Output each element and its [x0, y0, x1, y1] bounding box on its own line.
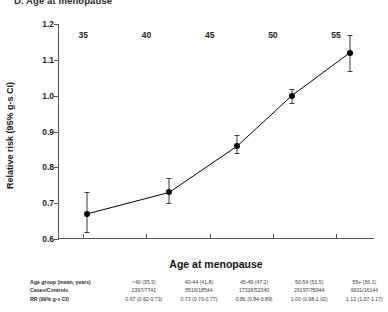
table-cell: 6601/16144 [337, 287, 388, 296]
table-cell: 50-54 (51.5) [282, 278, 337, 287]
error-bar-cap [289, 89, 294, 90]
table-cell: 26197/75944 [282, 287, 337, 296]
table-row-label: Age group (mean, years) [30, 278, 116, 287]
data-point-marker [289, 93, 295, 99]
table-row: Cases/Controls2397/77415516/1854417336/5… [30, 287, 388, 296]
y-tick-label: 1.1 [42, 55, 54, 65]
error-bar-cap [167, 178, 172, 179]
data-point-marker [84, 211, 90, 217]
table-cell: <40 (35.3) [116, 278, 171, 287]
table-cell: 55+ (56.1) [337, 278, 388, 287]
error-bar-cap [235, 135, 240, 136]
table-row-label: Cases/Controls [30, 287, 116, 296]
series-line [58, 24, 374, 239]
error-bar-cap [85, 192, 90, 193]
y-tick-label: 0.7 [42, 198, 54, 208]
data-point-marker [347, 50, 353, 56]
data-point-marker [166, 189, 172, 195]
table-cell: 0.67 (0.62-0.73) [116, 295, 171, 304]
table-cell: 5516/18544 [171, 287, 226, 296]
table-row: RR (99% g-s CI)0.67 (0.62-0.73)0.73 (0.7… [30, 295, 388, 304]
y-axis-title: Relative risk (95% g-s CI) [5, 28, 15, 243]
table-row: Age group (mean, years)<40 (35.3)40-44 (… [30, 278, 388, 287]
table-cell: 40-44 (41.8) [171, 278, 226, 287]
summary-data-table: Age group (mean, years)<40 (35.3)40-44 (… [0, 278, 382, 304]
y-tick-label: 0.6 [42, 234, 54, 244]
error-bar-cap [289, 103, 294, 104]
chart-plot-area: Relative risk (95% g-s CI) 0.60.70.80.91… [0, 14, 382, 242]
error-bar-cap [347, 35, 352, 36]
panel-title: D. Age at menopause [14, 0, 112, 6]
table-cell: 0.73 (0.70-0.77) [171, 295, 226, 304]
table-cell: 2397/7741 [116, 287, 171, 296]
y-tick-label: 1.0 [42, 91, 54, 101]
table-cell: 1.00 (0.98-1.02) [282, 295, 337, 304]
x-axis-title: Age at menopause [58, 258, 374, 270]
error-bar-cap [85, 232, 90, 233]
error-bar-cap [347, 71, 352, 72]
y-tick-label: 1.2 [42, 19, 54, 29]
table-cell: 17336/52040 [227, 287, 282, 296]
y-tick-label: 0.8 [42, 162, 54, 172]
table-cell: 45-49 (47.2) [227, 278, 282, 287]
error-bar-cap [235, 153, 240, 154]
table-cell: 1.12 (1.07-1.17) [337, 295, 388, 304]
table-cell: 0.86 (0.84-0.89) [227, 295, 282, 304]
error-bar-cap [167, 203, 172, 204]
axis-frame: 0.60.70.80.91.01.11.2 3540455055 [58, 24, 374, 239]
y-tick [54, 239, 59, 240]
data-point-marker [234, 143, 240, 149]
table-row-label: RR (99% g-s CI) [30, 295, 116, 304]
y-tick-label: 0.9 [42, 127, 54, 137]
